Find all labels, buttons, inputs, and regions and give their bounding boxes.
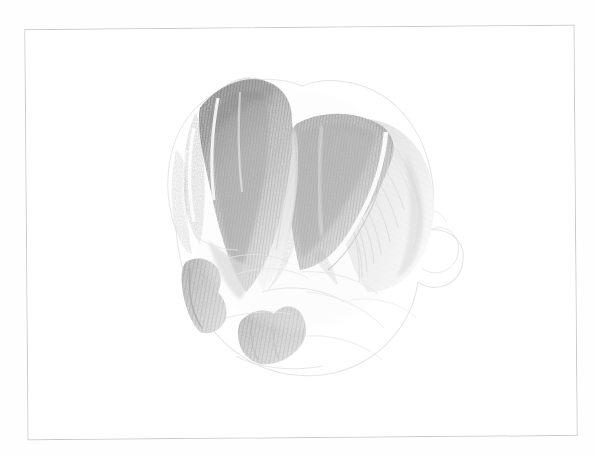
- frame-inner-field: [25, 26, 576, 439]
- drawing-canvas: Tulip study tulip flower graphite pencil…: [0, 0, 597, 457]
- drawing-border: [24, 25, 577, 440]
